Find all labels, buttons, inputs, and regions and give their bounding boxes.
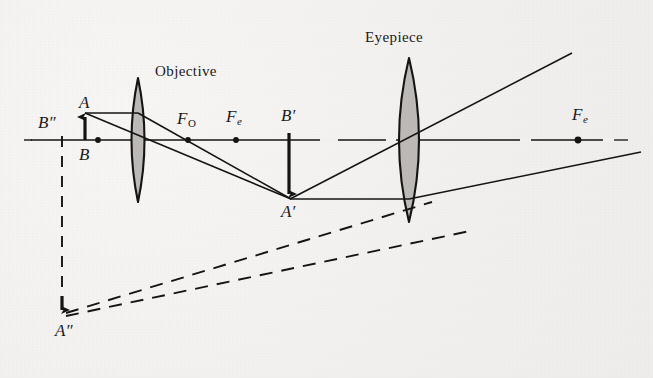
dot-objective-front-focus — [95, 137, 101, 143]
dot-eyepiece-right-focus — [575, 137, 582, 144]
label-A-prime: A′ — [281, 203, 295, 220]
label-B-prime-mark: ′ — [291, 106, 295, 125]
label-B-double-prime: B″ — [38, 114, 55, 131]
label-B-prime: B′ — [281, 107, 295, 124]
eyepiece-title: Eyepiece — [365, 30, 423, 45]
label-A-prime-mark: ′ — [291, 202, 295, 221]
label-F-eyepiece-right-letter: F — [572, 105, 582, 124]
label-A-double-prime-marks: ″ — [65, 321, 72, 340]
label-F-objective: FO — [177, 110, 196, 129]
label-F-eyepiece-left: Fe — [226, 108, 242, 127]
label-F-objective-subscript: O — [187, 117, 195, 129]
label-B: B — [79, 146, 89, 163]
label-B-prime-letter: B — [281, 106, 291, 125]
label-B-double-prime-letter: B — [38, 113, 48, 132]
label-F-eyepiece-right-subscript: e — [582, 113, 587, 125]
dot-eyepiece-left-focus — [233, 137, 239, 143]
label-A: A — [79, 94, 89, 111]
label-A-double-prime-letter: A — [55, 321, 65, 340]
label-F-eyepiece-left-letter: F — [226, 107, 236, 126]
optics-figure: Objective Eyepiece A B B″ FO Fe B′ A′ Fe… — [0, 0, 653, 378]
label-A-prime-letter: A — [281, 202, 291, 221]
label-F-objective-letter: F — [177, 109, 187, 128]
objective-lens — [132, 78, 145, 202]
label-A-double-prime: A″ — [55, 322, 72, 339]
label-F-eyepiece-left-subscript: e — [236, 115, 241, 127]
dot-objective-back-focus — [185, 137, 191, 143]
ray-diagram-svg — [0, 0, 653, 378]
label-B-double-prime-marks: ″ — [48, 113, 55, 132]
label-F-eyepiece-right: Fe — [572, 106, 588, 125]
ray-bundle-eyepiece — [290, 53, 641, 199]
objective-title: Objective — [155, 64, 217, 79]
